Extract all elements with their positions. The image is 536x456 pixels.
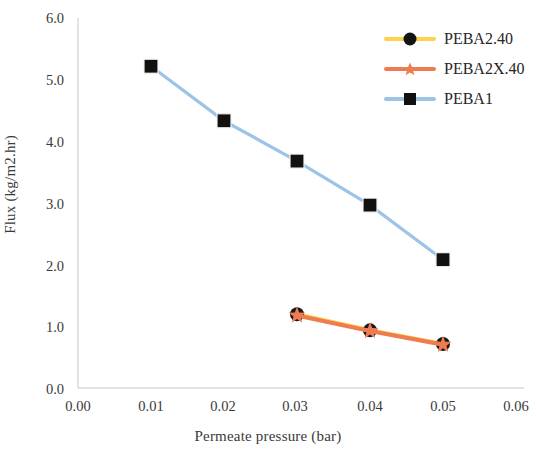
legend-key-peba2x-40 xyxy=(384,61,436,77)
series-peba2x-40 xyxy=(288,306,451,351)
data-point xyxy=(290,154,304,168)
data-point xyxy=(217,114,231,128)
legend-key-peba2-40 xyxy=(384,31,436,47)
legend-item-peba2x-40[interactable]: PEBA2X.40 xyxy=(384,54,534,84)
data-point xyxy=(436,253,450,267)
square-marker-icon xyxy=(402,91,418,107)
legend: PEBA2.40 PEBA2X.40 PEBA1 xyxy=(384,24,534,114)
data-point xyxy=(144,59,158,73)
legend-key-peba1 xyxy=(384,91,436,107)
flux-vs-permeate-pressure-chart: Flux (kg/m2.hr) 6.0 5.0 4.0 3.0 2.0 1.0 … xyxy=(0,0,536,456)
legend-label-peba2-40: PEBA2.40 xyxy=(436,30,513,48)
data-point xyxy=(363,198,377,212)
legend-item-peba2-40[interactable]: PEBA2.40 xyxy=(384,24,534,54)
legend-label-peba2x-40: PEBA2X.40 xyxy=(436,60,524,78)
star-marker-icon xyxy=(402,61,418,77)
legend-label-peba1: PEBA1 xyxy=(436,90,493,108)
circle-marker-icon xyxy=(402,31,418,47)
legend-item-peba1[interactable]: PEBA1 xyxy=(384,84,534,114)
